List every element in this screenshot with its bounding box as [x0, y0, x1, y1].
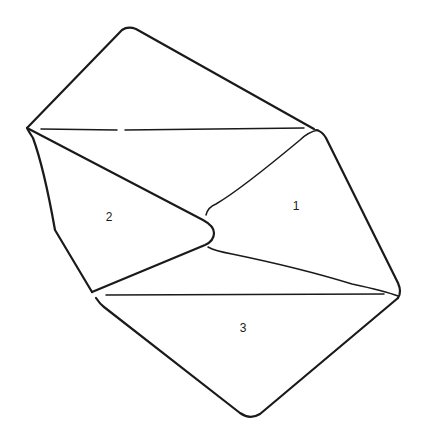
flap-2-upper-edge: [29, 129, 214, 292]
folded-paper-diagram: 1 2 3: [0, 0, 424, 446]
bottom-fold-line: [106, 294, 384, 295]
flap-label-1: 1: [293, 199, 300, 213]
flap-1-lower-edge: [208, 247, 398, 296]
flap-3-outline: [96, 298, 398, 417]
flap-2-outline: [27, 128, 92, 292]
top-fold-line-right: [125, 128, 304, 130]
top-fold-line-left: [41, 129, 117, 130]
top-flap-outline: [27, 28, 314, 129]
flap-1-upper-edge: [206, 130, 318, 215]
flap-label-3: 3: [240, 321, 247, 335]
flap-1-right-edge: [316, 130, 400, 298]
flap-label-2: 2: [106, 210, 113, 224]
